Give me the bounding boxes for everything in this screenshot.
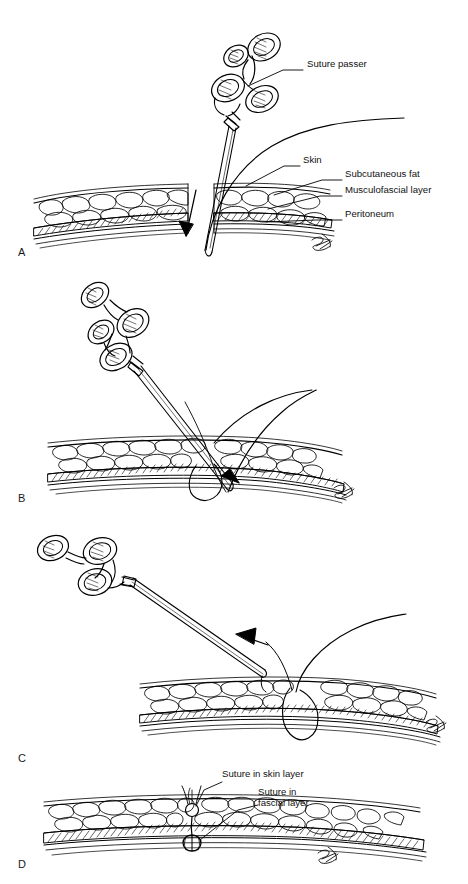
panel-letter-b: B — [18, 492, 26, 504]
tissue-right-a — [214, 183, 334, 240]
artist-signature-a — [312, 234, 332, 250]
artist-signature-d — [318, 847, 338, 863]
tissue-b — [48, 436, 346, 503]
callout-suture-in-skin-layer: Suture in skin layer — [222, 768, 304, 780]
callout-suture-passer: Suture passer — [307, 58, 367, 70]
panel-b: B — [0, 270, 468, 510]
suture-hook-c — [261, 676, 266, 692]
panel-c: C — [0, 510, 468, 760]
callout-musculofascial-layer: Musculofascial layer — [345, 184, 431, 196]
panel-letter-d: D — [18, 858, 26, 870]
suture-connector-thread — [191, 817, 192, 836]
suture-passer-shaft-a — [205, 126, 236, 256]
artist-signature-c — [426, 716, 446, 732]
suture-passer-shaft-b — [134, 366, 233, 491]
callout-skin: Skin — [303, 154, 322, 166]
suture-passer-handle-b — [76, 277, 154, 376]
panel-letter-a: A — [18, 246, 26, 258]
suture-loop-c — [283, 688, 319, 740]
suture-passer-handle-a — [207, 28, 285, 131]
suture-passer-handle-c — [34, 531, 136, 599]
panel-c-artwork — [0, 510, 468, 760]
callout-suture-in-fascial-layer-line1: Suture in — [258, 786, 296, 798]
tissue-left-a — [34, 184, 188, 248]
tissue-d — [44, 795, 426, 861]
panel-d: D Suture in skin layer Suture in fascial… — [0, 760, 468, 884]
callout-peritoneum: Peritoneum — [345, 208, 394, 220]
panel-a-artwork — [0, 0, 468, 270]
surgical-technique-figure: A Suture passer Skin Subcutaneous fat Mu… — [0, 0, 468, 884]
direction-arrow-c — [236, 628, 268, 645]
callout-suture-in-fascial-layer-line2: fascial layer — [258, 797, 309, 809]
panel-a: A Suture passer Skin Subcutaneous fat Mu… — [0, 0, 468, 270]
suture-passer-shaft-c — [130, 578, 266, 677]
callout-subcutaneous-fat: Subcutaneous fat — [345, 168, 420, 180]
panel-b-artwork — [0, 270, 468, 510]
